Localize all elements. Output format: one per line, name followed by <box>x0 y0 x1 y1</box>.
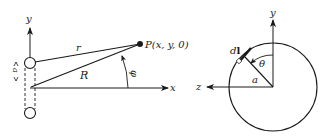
point-P-label: P(x, y, 0) <box>144 39 189 50</box>
right-z-axis-label: z <box>195 81 202 92</box>
R-label: R <box>79 69 88 82</box>
phi-arc <box>122 56 128 88</box>
left-x-axis-label: x <box>170 82 176 93</box>
right-figure: y z a θ dl <box>195 7 317 131</box>
spacing-label: a <box>11 68 20 73</box>
spacing-indicator: a <box>11 62 20 81</box>
r-line <box>35 44 140 62</box>
right-y-axis-label: y <box>269 7 276 18</box>
diagram-canvas: y x a r R P(x, y, 0) φ <box>0 0 330 138</box>
wire-circle-top <box>25 58 36 69</box>
theta-label: θ <box>259 58 265 69</box>
phi-label: φ <box>129 70 140 77</box>
wire-circle-bottom <box>25 108 36 119</box>
point-P <box>137 41 143 47</box>
left-y-axis-label: y <box>25 13 32 24</box>
dl-label: dl <box>230 45 240 56</box>
radius-label: a <box>252 74 258 85</box>
left-figure: y x a r R P(x, y, 0) φ <box>11 13 189 119</box>
r-label: r <box>76 42 82 53</box>
dl-label-l: l <box>236 45 240 56</box>
